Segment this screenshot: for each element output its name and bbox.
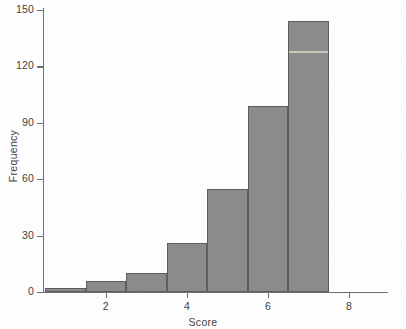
x-axis-title: Score [0,316,406,328]
y-axis-line [43,8,44,293]
plot-area: 0306090120150 2468 Frequency Score [0,0,406,329]
x-tick-mark [349,292,350,298]
y-tick-mark [37,10,44,11]
histogram-bar [207,189,248,292]
x-tick-mark [268,292,269,298]
y-tick-label: 60 [22,172,34,184]
histogram-bar [126,273,167,292]
histogram-bar [86,281,127,292]
histogram-figure: 0306090120150 2468 Frequency Score [0,0,406,329]
x-tick-label: 8 [346,300,352,312]
y-tick-mark [37,66,44,67]
x-tick-label: 6 [265,300,271,312]
histogram-bar [288,21,329,292]
y-tick-label: 0 [28,285,34,297]
y-tick-label: 30 [22,229,34,241]
y-tick-label: 150 [16,3,34,15]
y-tick-mark [37,236,44,237]
x-tick-label: 4 [184,300,190,312]
y-axis-title: Frequency [7,111,19,201]
histogram-bar [167,243,208,292]
histogram-bar [248,106,289,292]
x-tick-mark [106,292,107,298]
x-tick-label: 2 [103,300,109,312]
histogram-bar [45,288,86,292]
y-tick-mark [37,123,44,124]
y-tick-mark [37,179,44,180]
y-tick-mark [37,292,44,293]
x-axis-line [43,292,388,293]
y-tick-label: 120 [16,59,34,71]
x-tick-mark [187,292,188,298]
y-tick-label: 90 [22,116,34,128]
